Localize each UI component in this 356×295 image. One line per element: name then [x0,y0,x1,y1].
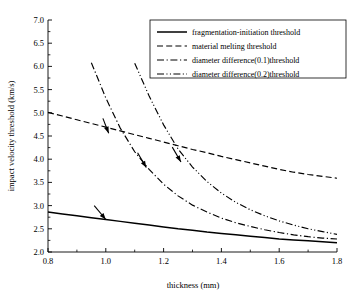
chart-canvas: 2.02.53.03.54.04.55.05.56.06.57.0 0.81.0… [0,0,356,295]
x-axis-label: thickness (mm) [167,280,220,290]
legend-label-2: diameter difference(0.1)threshold [192,56,299,65]
y-tick-label: 3.0 [33,201,44,211]
x-tick-label: 1.4 [216,256,227,266]
y-tick-label: 2.5 [33,224,44,234]
x-tick-label: 1.0 [100,256,111,266]
legend-label-1: material melting threshold [192,42,276,51]
y-tick-label: 5.0 [33,108,44,118]
y-tick-label: 4.0 [33,154,44,164]
x-tick-label: 1.8 [332,256,343,266]
x-tick-label: 1.6 [274,256,285,266]
y-tick-label: 7.0 [33,15,44,25]
y-tick-label: 3.5 [33,177,44,187]
legend: fragmentation-initiation thresholdmateri… [150,20,346,79]
y-tick-label: 6.0 [33,61,44,71]
y-axis-label: impact velocity threshold (km/s) [6,80,16,191]
y-tick-label: 6.5 [33,38,44,48]
y-tick-label: 4.5 [33,131,44,141]
x-tick-label: 1.2 [158,256,169,266]
chart-figure: 2.02.53.03.54.04.55.05.56.06.57.0 0.81.0… [0,0,356,295]
legend-label-0: fragmentation-initiation threshold [192,28,300,37]
x-tick-label: 0.8 [43,256,54,266]
y-tick-label: 5.5 [33,85,44,95]
legend-label-3: diameter difference(0.2)threshold [192,70,299,79]
